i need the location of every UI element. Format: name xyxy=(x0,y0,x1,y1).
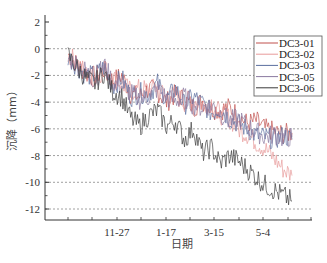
y-tick-label: 0 xyxy=(35,43,41,55)
x-tick-label: 3-15 xyxy=(204,226,225,238)
y-tick-label: -4 xyxy=(31,96,41,108)
legend-item-label: DC3-05 xyxy=(279,71,315,83)
y-tick-label: -6 xyxy=(31,123,41,135)
y-axis-title: 沉降（mm） xyxy=(5,85,19,150)
x-tick-label: 1-17 xyxy=(156,226,177,238)
y-tick-label: -10 xyxy=(25,176,40,188)
y-tick-label: -12 xyxy=(25,203,40,215)
legend-item-label: DC3-06 xyxy=(279,82,315,94)
legend-item-label: DC3-03 xyxy=(279,59,315,71)
settlement-line-chart: 20-2-4-6-8-10-12 11-271-173-155-4 日期 沉降（… xyxy=(0,0,327,263)
y-tick-label: -2 xyxy=(31,69,40,81)
legend: DC3-01DC3-02DC3-03DC3-05DC3-06 xyxy=(254,36,322,96)
x-axis-title: 日期 xyxy=(171,238,193,251)
y-tick-label: -8 xyxy=(31,150,41,162)
y-tick-label: 2 xyxy=(35,16,41,28)
x-tick-label: 11-27 xyxy=(104,226,130,238)
legend-item-label: DC3-01 xyxy=(279,37,314,49)
x-tick-label: 5-4 xyxy=(256,226,271,238)
legend-item-label: DC3-02 xyxy=(279,48,314,60)
